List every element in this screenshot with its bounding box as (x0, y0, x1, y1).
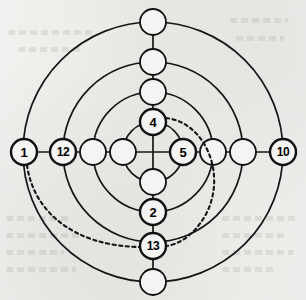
node-hole-right-r3 (230, 139, 256, 165)
node-hole-down-r1 (140, 169, 166, 195)
dashed-arc-1-to-13 (27, 165, 140, 247)
node-label-2: 2 (149, 205, 156, 220)
ring-diagram: 4 5 10 2 13 12 1 (0, 0, 306, 300)
node-label-1: 1 (20, 145, 27, 160)
dashed-arc-4-to-13 (166, 118, 214, 246)
node-hole-left-r2 (80, 139, 106, 165)
node-label-13: 13 (147, 239, 160, 253)
dashed-arcs-group (27, 118, 214, 247)
node-hole-up-r3 (140, 49, 166, 75)
node-label-12: 12 (57, 145, 70, 159)
node-hole-left-r1 (110, 139, 136, 165)
node-hole-down-r4 (140, 269, 166, 295)
figure-canvas: 4 5 10 2 13 12 1 (0, 0, 306, 300)
node-label-5: 5 (179, 145, 186, 160)
node-hole-up-r2 (140, 79, 166, 105)
node-label-10: 10 (277, 145, 290, 159)
node-label-4: 4 (149, 115, 157, 130)
node-hole-up-r4 (140, 9, 166, 35)
